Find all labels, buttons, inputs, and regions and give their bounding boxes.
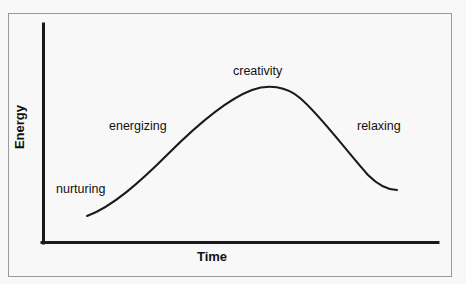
curve-annotation-energizing: energizing [109, 119, 167, 133]
figure: Energy Time nurturing energizing creativ… [0, 0, 466, 284]
y-axis-title: Energy [13, 97, 27, 157]
energy-curve-line [87, 87, 397, 216]
chart-plot-area [0, 0, 466, 284]
curve-annotation-nurturing: nurturing [56, 182, 105, 196]
curve-annotation-relaxing: relaxing [357, 119, 401, 133]
x-axis-title: Time [188, 249, 236, 264]
curve-annotation-creativity: creativity [233, 64, 282, 78]
